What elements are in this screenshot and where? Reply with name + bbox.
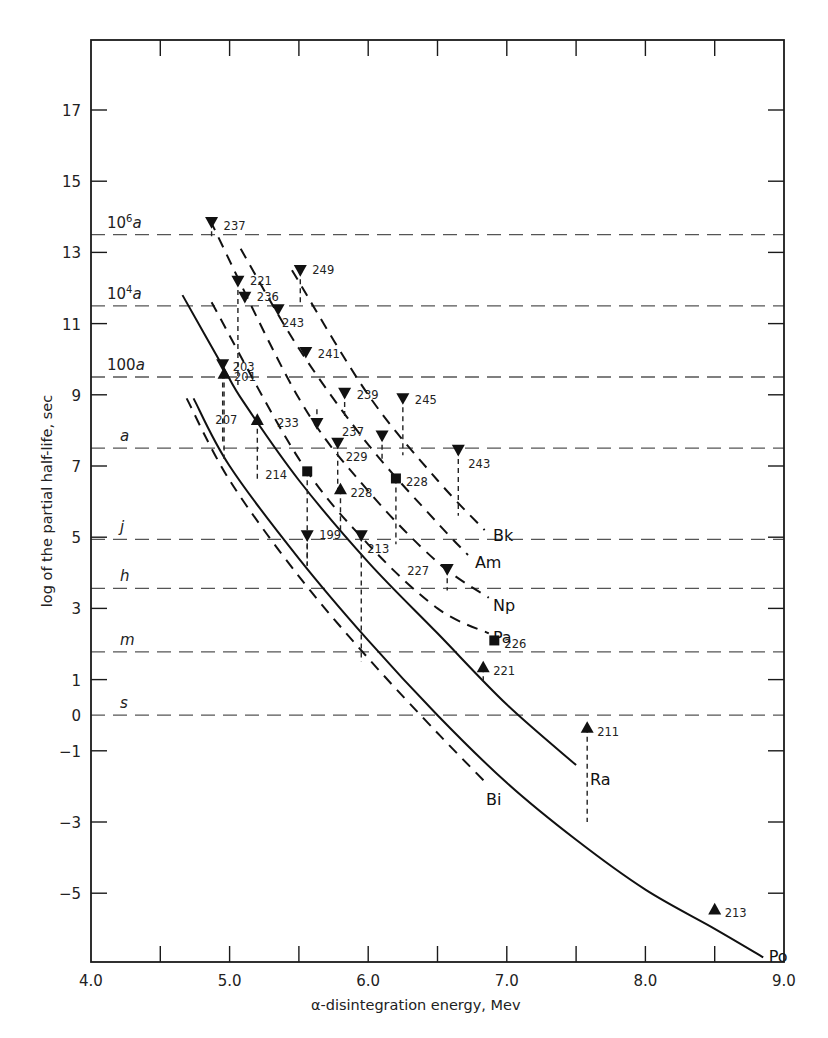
up-triangle-marker xyxy=(477,661,490,673)
y-tick-label: 0 xyxy=(71,707,81,725)
reference-label: a xyxy=(120,427,129,445)
down-triangle-marker xyxy=(441,564,454,576)
down-triangle-marker xyxy=(452,445,465,457)
reference-label: s xyxy=(120,694,128,712)
x-tick-label: 5.0 xyxy=(218,972,242,990)
y-tick-label: 7 xyxy=(71,458,81,476)
x-tick-label: 7.0 xyxy=(495,972,519,990)
y-tick-label: 17 xyxy=(62,102,81,120)
down-triangle-marker xyxy=(396,393,409,405)
y-tick-label: 1 xyxy=(71,672,81,690)
mass-number-label: 213 xyxy=(725,906,747,920)
mass-number-label: 207 xyxy=(215,413,237,427)
mass-number-label: 201 xyxy=(234,370,256,384)
y-tick-label: 15 xyxy=(62,173,81,191)
y-tick-label: 11 xyxy=(62,316,81,334)
down-triangle-marker xyxy=(205,217,218,229)
y-axis-title: log of the partial half-life, sec xyxy=(39,395,55,607)
axes xyxy=(91,40,784,962)
up-triangle-marker xyxy=(581,721,594,733)
x-tick-label: 6.0 xyxy=(356,972,380,990)
mass-number-label: 233 xyxy=(277,416,299,430)
down-triangle-marker xyxy=(238,292,251,304)
y-tick-label: 9 xyxy=(71,387,81,405)
down-triangle-marker xyxy=(216,359,229,371)
y-tick-label: 13 xyxy=(62,244,81,262)
mass-number-label: 229 xyxy=(346,450,368,464)
down-triangle-marker xyxy=(272,304,285,316)
reference-label: 100a xyxy=(107,356,145,374)
mass-number-label: 249 xyxy=(312,263,334,277)
mass-number-label: 245 xyxy=(415,393,437,407)
mass-number-label: 241 xyxy=(318,347,340,361)
square-marker xyxy=(302,466,312,476)
curve-pa xyxy=(212,302,489,633)
mass-number-label: 221 xyxy=(493,664,515,678)
mass-number-label: 243 xyxy=(468,457,490,471)
reference-time-lines: 106a104a100aajhms xyxy=(91,213,784,716)
down-triangle-marker xyxy=(301,530,314,542)
square-marker xyxy=(489,635,499,645)
x-tick-label: 9.0 xyxy=(772,972,796,990)
square-marker xyxy=(391,473,401,483)
alpha-decay-half-life-chart: 106a104a100aajhms PoBiRaPaNpAmBk 2372212… xyxy=(0,0,828,1038)
up-triangle-marker xyxy=(218,367,231,379)
y-tick-label: −1 xyxy=(59,743,81,761)
mass-number-label: 239 xyxy=(357,388,379,402)
plot-frame xyxy=(91,40,784,962)
mass-number-label: 237 xyxy=(342,425,364,439)
element-curves: PoBiRaPaNpAmBk xyxy=(182,220,787,965)
down-triangle-marker xyxy=(310,418,323,430)
down-triangle-marker xyxy=(376,431,389,443)
up-triangle-marker xyxy=(334,483,347,495)
mass-number-label: 236 xyxy=(257,290,279,304)
down-triangle-marker xyxy=(231,276,244,288)
y-tick-label: 3 xyxy=(71,600,81,618)
y-tick-label: −5 xyxy=(59,885,81,903)
y-tick-label: 5 xyxy=(71,529,81,547)
mass-number-label: 221 xyxy=(250,274,272,288)
curve-label-am: Am xyxy=(475,553,502,572)
reference-label: h xyxy=(120,567,130,585)
mass-number-label: 214 xyxy=(265,468,287,482)
mass-number-label: 211 xyxy=(597,725,619,739)
reference-label: 106a xyxy=(107,213,142,232)
up-triangle-marker xyxy=(708,903,721,915)
curve-label-bk: Bk xyxy=(493,526,514,545)
mass-number-label: 243 xyxy=(282,316,304,330)
reference-label: j xyxy=(118,518,125,536)
x-axis-title: α-disintegration energy, Mev xyxy=(311,997,521,1013)
down-triangle-marker xyxy=(338,388,351,400)
mass-number-label: 213 xyxy=(367,542,389,556)
drop-lines xyxy=(212,222,588,822)
axis-ticks: 4.05.06.07.08.09.017151311975310−1−3−5 xyxy=(59,40,796,990)
x-tick-label: 4.0 xyxy=(79,972,103,990)
curve-bi xyxy=(187,398,486,782)
mass-number-label: 227 xyxy=(407,564,429,578)
mass-number-label: 226 xyxy=(504,637,526,651)
mass-number-label: 237 xyxy=(224,219,246,233)
curve-label-ra: Ra xyxy=(590,770,611,789)
mass-number-label: 199 xyxy=(319,528,341,542)
y-tick-label: −3 xyxy=(59,814,81,832)
curve-label-np: Np xyxy=(493,596,515,615)
reference-label: 104a xyxy=(107,284,142,303)
mass-number-label: 228 xyxy=(350,486,372,500)
x-tick-label: 8.0 xyxy=(633,972,657,990)
mass-number-label: 228 xyxy=(406,475,428,489)
reference-label: m xyxy=(120,631,135,649)
curve-label-bi: Bi xyxy=(486,790,501,809)
down-triangle-marker xyxy=(355,530,368,542)
